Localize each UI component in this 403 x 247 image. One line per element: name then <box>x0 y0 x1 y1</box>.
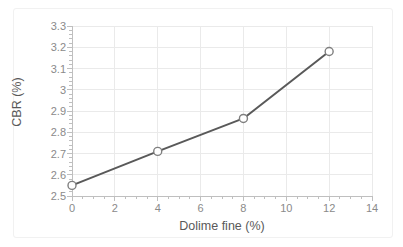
x-axis-tick-label: 12 <box>323 202 335 214</box>
y-axis-tick-label: 2.9 <box>51 105 66 117</box>
y-axis-tick-label: 3.1 <box>51 63 66 75</box>
x-axis-tick-labels: 02468101214 <box>0 202 403 218</box>
chart-figure: CBR (%) 2.52.62.72.82.933.13.23.3 024681… <box>0 0 403 247</box>
x-axis-tick-label: 8 <box>240 202 246 214</box>
data-series-cbr <box>72 26 372 196</box>
data-point-marker <box>325 48 333 56</box>
y-axis-tick-label: 2.8 <box>51 126 66 138</box>
y-axis-tick-label: 3.3 <box>51 20 66 32</box>
x-axis-tick-label: 10 <box>280 202 292 214</box>
x-axis-tick-label: 4 <box>155 202 161 214</box>
y-axis-tick-label: 2.6 <box>51 169 66 181</box>
data-point-marker <box>154 147 162 155</box>
y-axis-tick-label: 2.5 <box>51 190 66 202</box>
y-axis-title: CBR (%) <box>10 47 24 157</box>
x-axis-tick-label: 6 <box>198 202 204 214</box>
x-axis-tick-label: 2 <box>112 202 118 214</box>
data-point-marker <box>239 114 247 122</box>
y-axis-tick-label: 3.2 <box>51 41 66 53</box>
data-point-marker <box>68 181 76 189</box>
y-axis-tick-label: 3 <box>60 84 66 96</box>
series-line <box>72 52 329 186</box>
x-axis-title: Dolime fine (%) <box>72 219 372 233</box>
x-axis-tick-label: 14 <box>366 202 378 214</box>
y-axis-tick-label: 2.7 <box>51 148 66 160</box>
plot-area <box>72 26 372 196</box>
x-axis-tick-label: 0 <box>69 202 75 214</box>
